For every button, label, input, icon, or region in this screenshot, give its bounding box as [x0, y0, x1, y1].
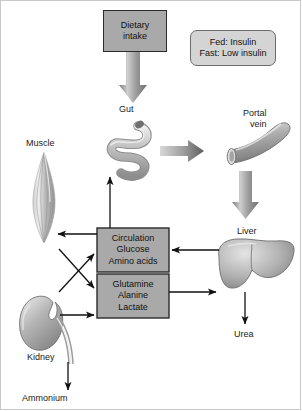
dietary-intake-line2: intake: [123, 31, 147, 43]
insulin-state-fast: Fast: Low insulin: [199, 48, 266, 60]
arrow-muscle-to-metabolites: [59, 249, 94, 288]
portal-vein-label-line1: Portal: [243, 108, 267, 119]
liver-label: Liver: [237, 226, 257, 237]
insulin-state-note: Fed: Insulin Fast: Low insulin: [190, 30, 276, 66]
dietary-intake-box: Dietary intake: [103, 10, 167, 52]
muscle-label: Muscle: [26, 138, 55, 149]
metabolites-line1: Glutamine: [112, 279, 153, 291]
portal-vein-label-line2: vein: [250, 119, 267, 130]
circulation-line1: Circulation: [112, 233, 155, 245]
liver-illustration: [219, 239, 294, 288]
circulation-line2: Glucose: [116, 244, 149, 256]
gut-illustration: [111, 119, 147, 176]
circulation-box: Circulation Glucose Amino acids: [97, 228, 169, 272]
dietary-intake-line1: Dietary: [121, 20, 150, 32]
arrow-dietary-to-gut: [119, 52, 147, 103]
kidney-label: Kidney: [27, 352, 55, 363]
metabolites-line2: Alanine: [118, 290, 148, 302]
arrow-kidney-to-circulation: [59, 254, 94, 292]
urea-label: Urea: [234, 329, 254, 340]
metabolites-box: Glutamine Alanine Lactate: [97, 274, 169, 318]
arrow-gut-to-portalvein: [160, 140, 204, 162]
insulin-state-fed: Fed: Insulin: [210, 37, 257, 49]
diagram-canvas: Dietary intake Fed: Insulin Fast: Low in…: [0, 0, 302, 411]
gut-label: Gut: [119, 104, 134, 115]
metabolites-line3: Lactate: [118, 302, 148, 314]
muscle-illustration: [33, 152, 55, 243]
ammonium-label: Ammonium: [22, 393, 68, 404]
arrow-portalvein-to-liver: [232, 171, 259, 219]
circulation-line3: Amino acids: [108, 256, 157, 268]
